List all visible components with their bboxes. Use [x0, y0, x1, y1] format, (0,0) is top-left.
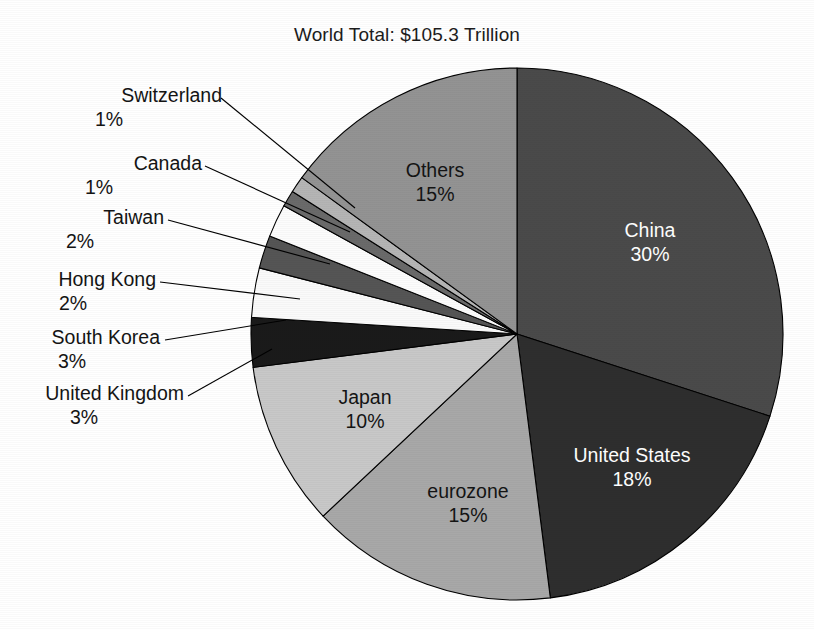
- slice-label-eurozone-pct: 15%: [400, 503, 536, 527]
- callout-taiwan-name: Taiwan: [12, 206, 164, 230]
- slice-label-japan-pct: 10%: [310, 409, 420, 433]
- callout-hong-kong-name: Hong Kong: [6, 268, 156, 292]
- slice-label-united-states-pct: 18%: [548, 467, 716, 491]
- callout-canada-name: Canada: [12, 152, 202, 176]
- slice-label-china-pct: 30%: [595, 242, 705, 266]
- callout-united-kingdom-name: United Kingdom: [0, 382, 184, 406]
- callout-south-korea-name: South Korea: [0, 326, 160, 350]
- slice-label-united-states-name: United States: [548, 443, 716, 467]
- slice-label-others-pct: 15%: [375, 182, 495, 206]
- callout-south-korea: South Korea 3%: [0, 326, 160, 374]
- callout-switzerland-name: Switzerland: [12, 84, 222, 108]
- slice-label-japan: Japan 10%: [310, 385, 420, 434]
- slice-label-japan-name: Japan: [310, 385, 420, 409]
- callout-united-kingdom-pct: 3%: [0, 406, 184, 430]
- callout-switzerland: Switzerland 1%: [12, 84, 222, 132]
- callout-taiwan-pct: 2%: [12, 230, 164, 254]
- callout-south-korea-pct: 3%: [0, 350, 160, 374]
- callout-switzerland-pct: 1%: [12, 108, 222, 132]
- slice-label-others: Others 15%: [375, 158, 495, 207]
- callout-united-kingdom: United Kingdom 3%: [0, 382, 184, 430]
- callout-canada-pct: 1%: [12, 176, 202, 200]
- callout-hong-kong: Hong Kong 2%: [6, 268, 156, 316]
- pie-chart-page: World Total: $105.3 Trillion Switzerland…: [0, 0, 814, 629]
- callout-taiwan: Taiwan 2%: [12, 206, 164, 254]
- slice-label-eurozone: eurozone 15%: [400, 479, 536, 528]
- callout-canada: Canada 1%: [12, 152, 202, 200]
- slice-label-china: China 30%: [595, 218, 705, 267]
- callout-hong-kong-pct: 2%: [6, 292, 156, 316]
- slice-label-china-name: China: [595, 218, 705, 242]
- slice-label-eurozone-name: eurozone: [400, 479, 536, 503]
- slice-label-united-states: United States 18%: [548, 443, 716, 492]
- slice-label-others-name: Others: [375, 158, 495, 182]
